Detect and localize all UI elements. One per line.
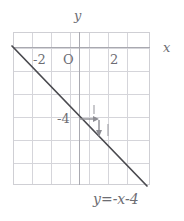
plot-line-layer bbox=[0, 0, 184, 221]
plotted-line bbox=[12, 46, 147, 186]
run-arrow-head bbox=[93, 116, 99, 122]
equation-label: y=-x-4 bbox=[93, 192, 139, 206]
graph-figure: y x -2 O 2 -4 y=-x-4 bbox=[0, 0, 184, 221]
